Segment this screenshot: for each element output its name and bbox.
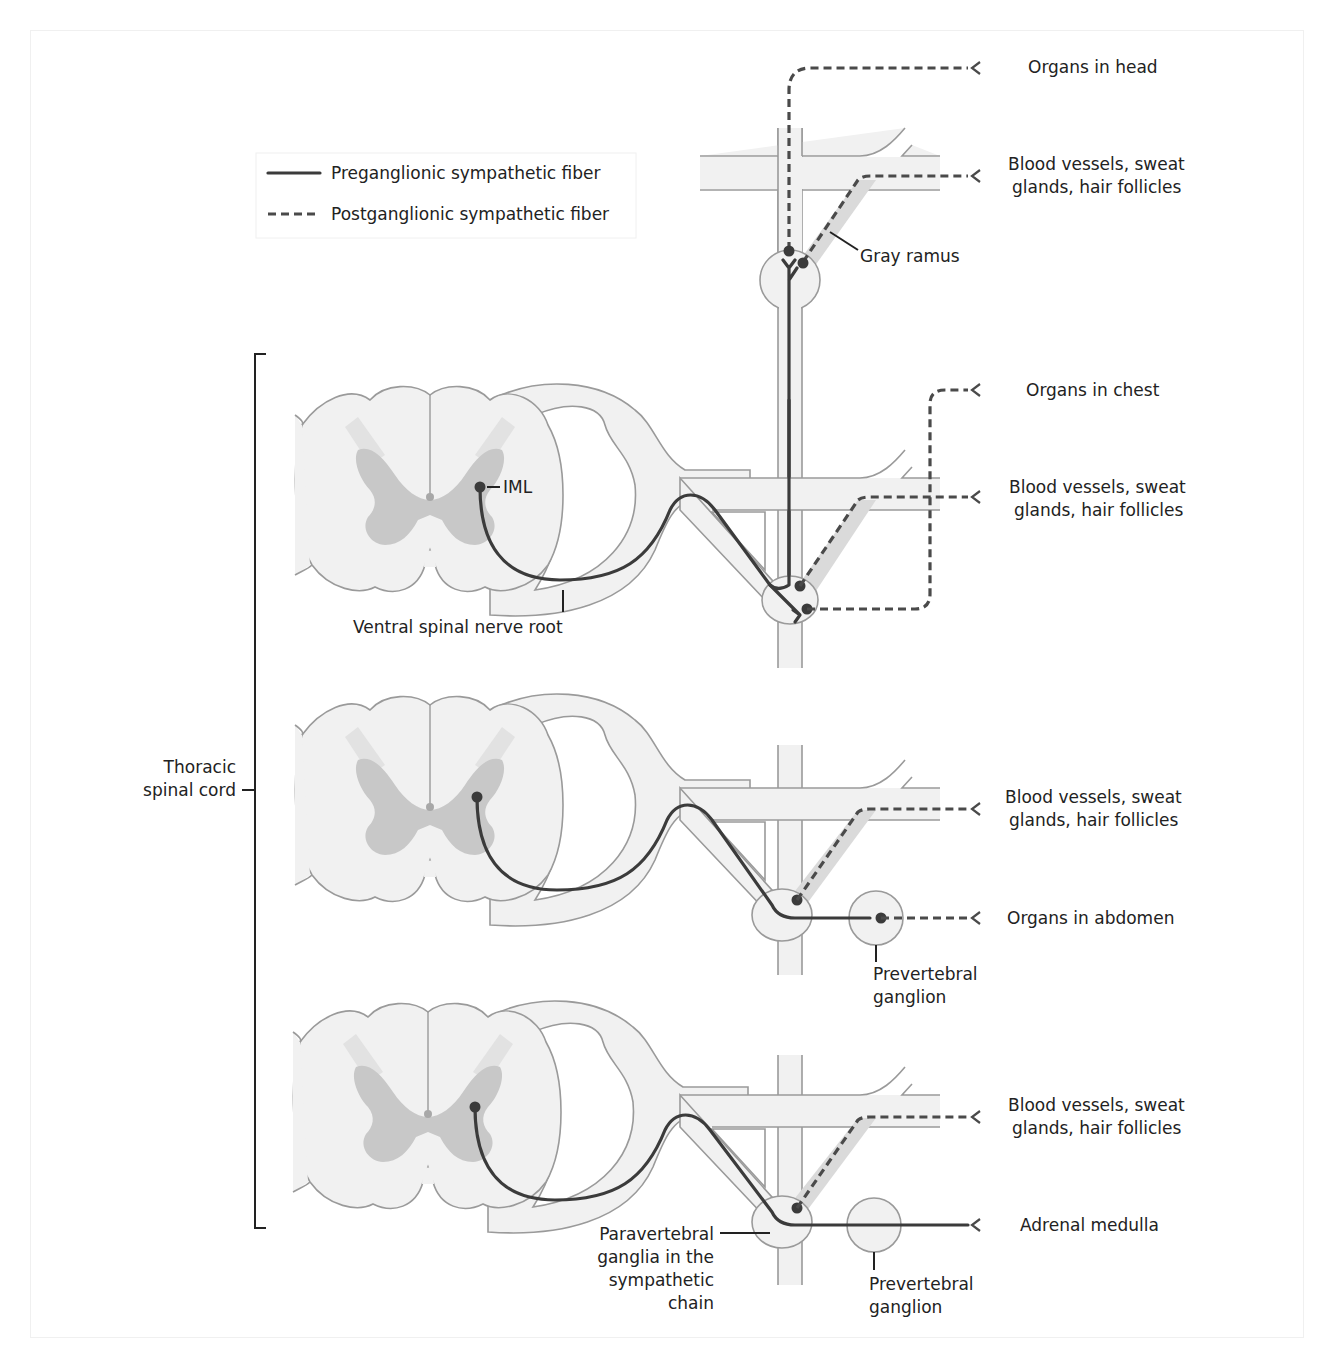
thoracic-bracket: Thoracic spinal cord [143, 354, 266, 1228]
label-paravertebral-b: ganglia in the [597, 1247, 714, 1267]
label-vessels-1b: glands, hair follicles [1012, 177, 1182, 197]
label-organs-head: Organs in head [1028, 57, 1158, 77]
label-gray-ramus: Gray ramus [860, 246, 960, 266]
label-organs-abdomen: Organs in abdomen [1007, 908, 1174, 928]
label-paravertebral-a: Paravertebral [599, 1224, 714, 1244]
label-vessels-3a: Blood vessels, sweat [1005, 787, 1182, 807]
arrowhead-icon [972, 1111, 980, 1123]
label-prevertebral-2a: Prevertebral [869, 1274, 974, 1294]
label-vessels-2b: glands, hair follicles [1014, 500, 1184, 520]
arrowhead-icon [972, 384, 980, 396]
label-adrenal-medulla: Adrenal medulla [1020, 1215, 1159, 1235]
label-vessels-4b: glands, hair follicles [1012, 1118, 1182, 1138]
postganglionic-fiber-vessels-4 [797, 1117, 968, 1208]
arrowhead-icon [972, 912, 980, 924]
level-chest: IML Ventral spinal nerve root Organs in … [295, 380, 1186, 637]
iml-cell-body [475, 482, 486, 493]
legend-preganglionic: Preganglionic sympathetic fiber [331, 163, 601, 183]
label-vessels-2a: Blood vessels, sweat [1009, 477, 1186, 497]
label-ventral-root: Ventral spinal nerve root [353, 617, 563, 637]
sympathetic-pathways-diagram: Preganglionic sympathetic fiber Postgang… [0, 0, 1329, 1352]
label-thoracic-b: spinal cord [143, 780, 236, 800]
label-prevertebral-1a: Prevertebral [873, 964, 978, 984]
level-abdomen: Prevertebral ganglion Blood vessels, swe… [295, 694, 1182, 1007]
label-paravertebral-c: sympathetic [609, 1270, 714, 1290]
ganglion-cell-body [798, 258, 809, 269]
legend-postganglionic: Postganglionic sympathetic fiber [331, 204, 609, 224]
arrowhead-icon [972, 491, 980, 503]
label-prevertebral-1b: ganglion [873, 987, 946, 1007]
label-vessels-3b: glands, hair follicles [1009, 810, 1179, 830]
iml-cell-body [472, 792, 483, 803]
arrowhead-icon [972, 170, 980, 182]
label-thoracic-a: Thoracic [163, 757, 236, 777]
level-adrenal: Prevertebral ganglion Paravertebral gang… [293, 1001, 1185, 1317]
label-prevertebral-2b: ganglion [869, 1297, 942, 1317]
arrowhead-icon [972, 803, 980, 815]
label-paravertebral-d: chain [668, 1293, 714, 1313]
postganglionic-fiber-vessels-3 [797, 809, 968, 900]
label-iml: IML [503, 477, 533, 497]
iml-cell-body [470, 1102, 481, 1113]
label-organs-chest: Organs in chest [1026, 380, 1160, 400]
arrowhead-icon [972, 62, 980, 74]
legend: Preganglionic sympathetic fiber Postgang… [256, 153, 636, 238]
label-vessels-1a: Blood vessels, sweat [1008, 154, 1185, 174]
arrowhead-icon [972, 1219, 980, 1231]
ganglion-cell-body [784, 246, 795, 257]
label-vessels-4a: Blood vessels, sweat [1008, 1095, 1185, 1115]
